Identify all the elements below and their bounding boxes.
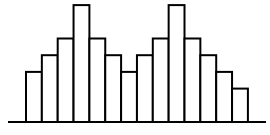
bar-1 (26, 72, 42, 122)
bar-7 (121, 72, 137, 122)
bar-2 (42, 55, 58, 122)
bars-group (26, 5, 248, 122)
bar-13 (216, 72, 232, 122)
bar-11 (185, 39, 201, 123)
bar-3 (58, 39, 74, 123)
bar-6 (105, 55, 121, 122)
bar-chart (0, 0, 270, 135)
bar-9 (153, 39, 169, 123)
bar-12 (200, 55, 216, 122)
bar-10 (169, 5, 185, 122)
bar-8 (137, 55, 153, 122)
bar-4 (74, 5, 90, 122)
bar-5 (89, 39, 105, 123)
bar-14 (232, 89, 248, 122)
